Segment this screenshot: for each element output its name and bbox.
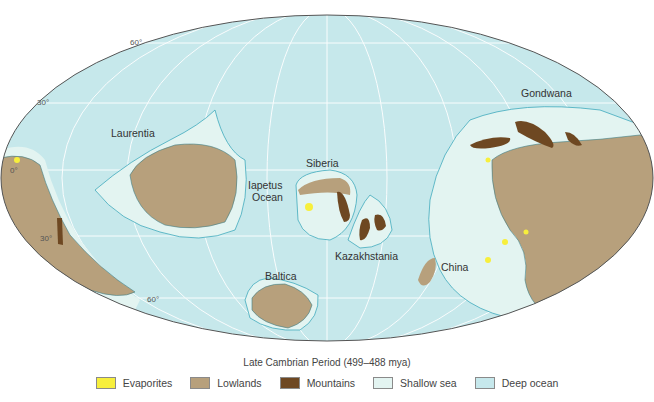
evaporites-west	[14, 157, 20, 163]
legend-item-deep-ocean: Deep ocean	[475, 377, 559, 389]
legend-item-lowlands: Lowlands	[190, 377, 261, 389]
label-siberia: Siberia	[306, 158, 339, 169]
shallow-sea-swatch	[373, 377, 393, 389]
paleogeographic-map	[0, 0, 654, 350]
lowlands-swatch	[190, 377, 210, 389]
label-gondwana: Gondwana	[521, 88, 572, 99]
deep-ocean-swatch	[475, 377, 495, 389]
evaporites-swatch	[96, 377, 116, 389]
legend-label: Evaporites	[123, 377, 173, 389]
lat-label-60n: 60°	[130, 39, 142, 47]
label-china: China	[441, 262, 468, 273]
lat-label-equator: 0°	[10, 167, 18, 175]
map-caption: Late Cambrian Period (499–488 mya)	[0, 357, 654, 368]
legend-label: Mountains	[307, 377, 355, 389]
evaporites-gondwana-2	[502, 239, 508, 245]
label-baltica: Baltica	[265, 271, 297, 282]
legend-item-shallow-sea: Shallow sea	[373, 377, 457, 389]
lat-label-30s: 30°	[40, 235, 52, 243]
label-kazakhstania: Kazakhstania	[335, 251, 398, 262]
legend: Evaporites Lowlands Mountains Shallow se…	[0, 377, 654, 389]
label-iapetus-1: Iapetus	[248, 180, 282, 191]
legend-label: Deep ocean	[502, 377, 559, 389]
label-laurentia: Laurentia	[111, 128, 155, 139]
evaporites-gondwana-3	[485, 257, 491, 263]
legend-item-mountains: Mountains	[280, 377, 355, 389]
lat-label-30n: 30°	[37, 99, 49, 107]
label-iapetus-2: Ocean	[252, 192, 283, 203]
evaporites-gondwana-1	[486, 158, 491, 163]
legend-label: Shallow sea	[400, 377, 457, 389]
mountains-swatch	[280, 377, 300, 389]
evaporites-siberia	[305, 203, 313, 211]
lat-label-60s: 60°	[147, 296, 159, 304]
legend-item-evaporites: Evaporites	[96, 377, 173, 389]
mountains-west	[57, 218, 63, 245]
legend-label: Lowlands	[217, 377, 261, 389]
evaporites-gondwana-4	[524, 230, 529, 235]
